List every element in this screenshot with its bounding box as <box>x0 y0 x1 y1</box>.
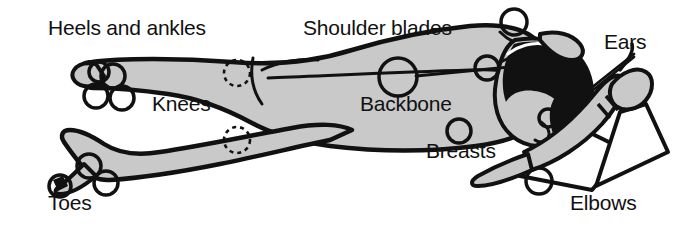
label-heels-and-ankles: Heels and ankles <box>48 17 206 38</box>
body-outline <box>56 25 558 194</box>
label-breasts: Breasts <box>426 140 496 161</box>
label-toes: Toes <box>48 192 92 213</box>
label-elbows: Elbows <box>570 192 637 213</box>
label-shoulder-blades: Shoulder blades <box>303 17 452 38</box>
pressure-points-figure: Heels and ankles Shoulder blades Ears Kn… <box>0 0 689 229</box>
label-ears: Ears <box>604 31 646 52</box>
label-knees: Knees <box>152 93 211 114</box>
label-backbone: Backbone <box>360 93 452 114</box>
